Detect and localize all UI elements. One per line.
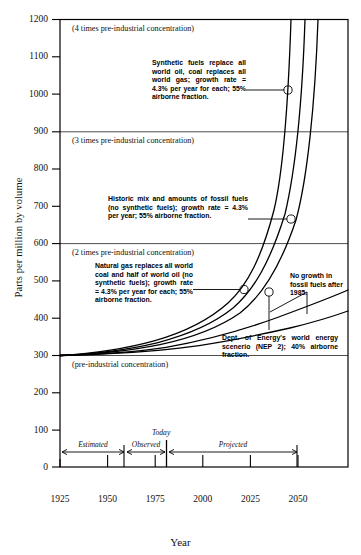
annotation-natural-gas: Natural gas replaces all world coal and … — [95, 262, 193, 305]
reference-label-300: (pre-industrial concentration) — [72, 360, 168, 369]
annotation-doe-nep2: Dept. of Energy's world energy scenerio … — [222, 334, 338, 360]
reference-label-1200: (4 times pre-industrial concentration) — [72, 24, 194, 33]
annotation-historic-mix: Historic mix and amounts of fossil fuels… — [108, 195, 248, 221]
callout-synthetic-fuels — [246, 86, 292, 94]
era-label-projected: Projected — [169, 440, 297, 449]
chart-figure: Parts per million by volume 1200 1100 10… — [0, 0, 361, 555]
x-axis-ticks — [60, 455, 298, 467]
era-label-observed: Observed — [127, 440, 165, 449]
era-label-estimated: Estimated — [62, 440, 124, 449]
reference-label-600: (2 times pre-industrial concentration) — [72, 248, 194, 257]
today-marker-label: Today — [152, 428, 170, 437]
annotation-synthetic-fuels: Synthetic fuels replace all world oil, c… — [152, 59, 246, 102]
callout-doe-nep2 — [265, 288, 273, 330]
callout-natural-gas — [193, 285, 248, 293]
callout-historic-mix — [248, 215, 295, 223]
reference-label-900: (3 times pre-industrial concentration) — [72, 136, 194, 145]
annotation-no-growth: No growth in fossil fuels after 1985. — [290, 272, 348, 298]
y-axis-ticks — [52, 20, 60, 468]
